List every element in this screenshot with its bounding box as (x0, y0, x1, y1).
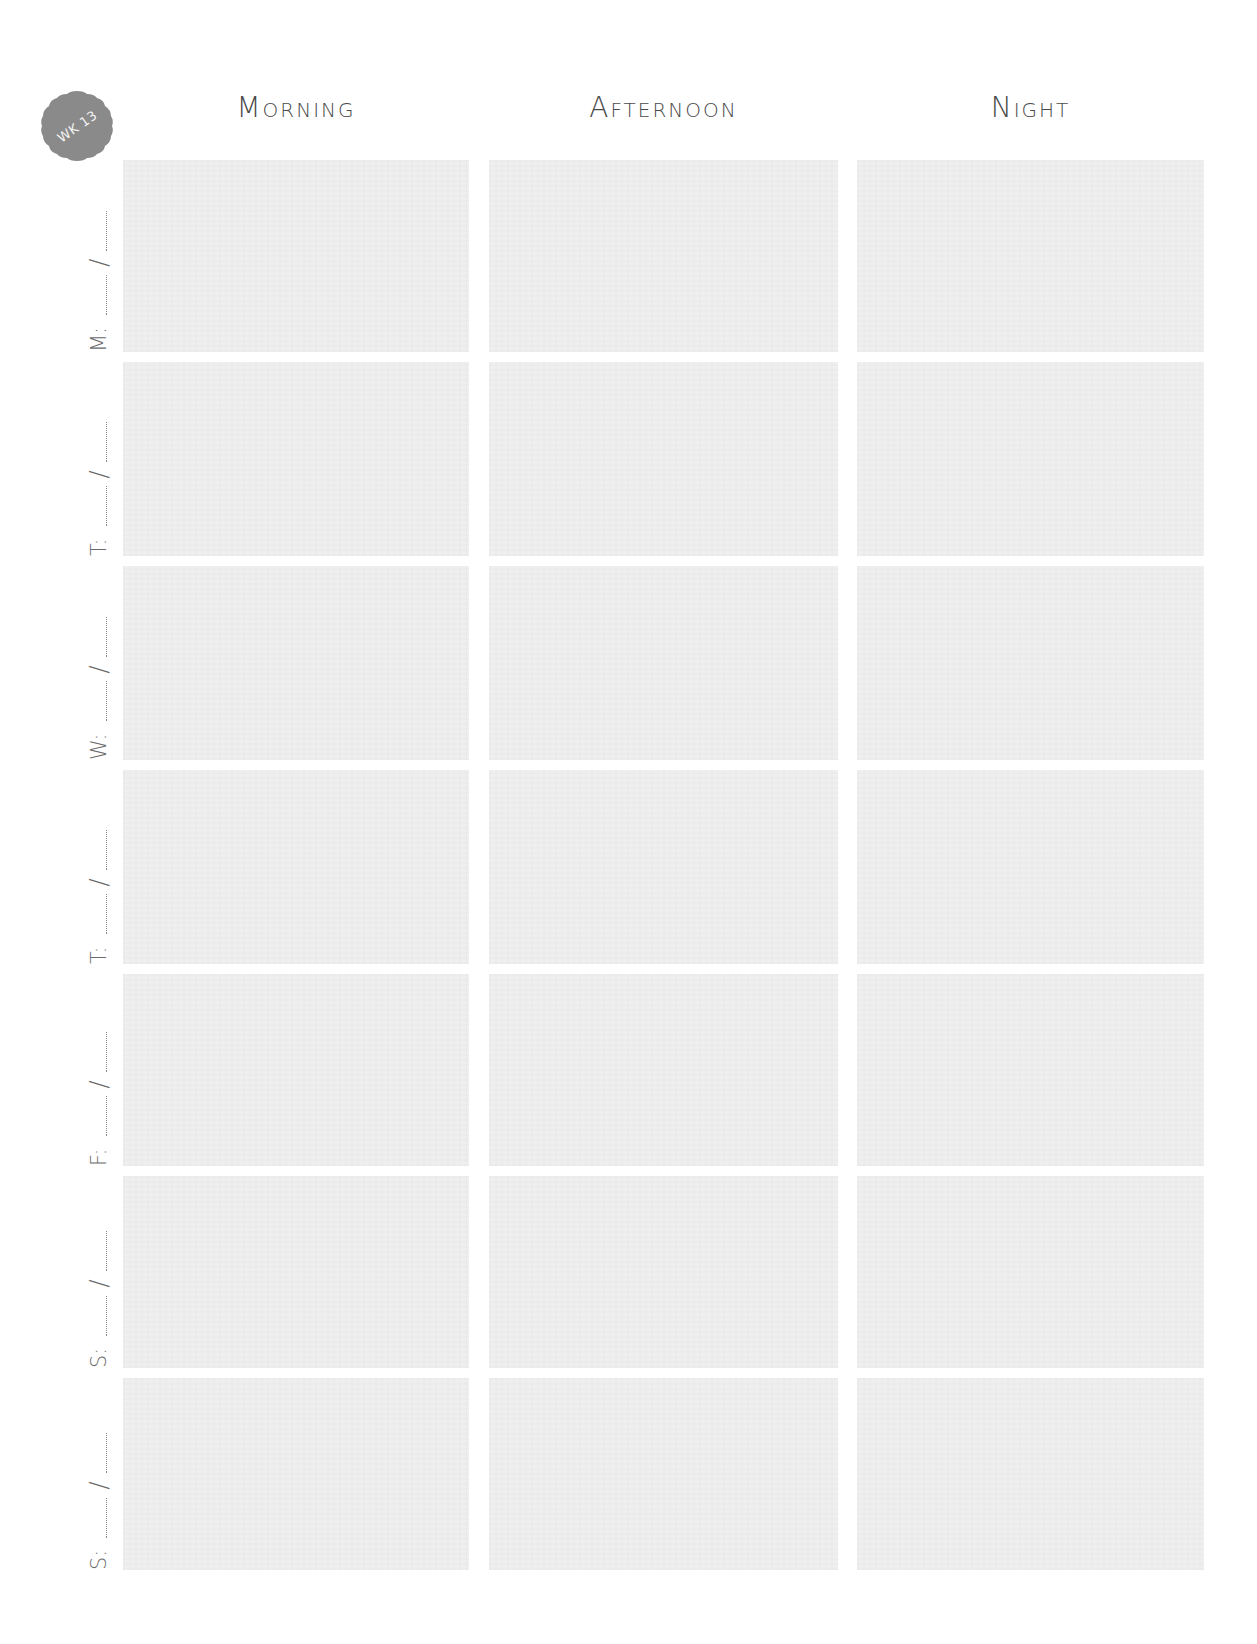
date-day-blank[interactable] (92, 211, 107, 251)
day-label-friday: F: / (84, 974, 114, 1166)
cell-saturday-morning[interactable] (123, 1176, 469, 1368)
cell-thursday-morning[interactable] (123, 770, 469, 964)
day-label-sunday: S: / (84, 1378, 114, 1570)
cell-thursday-afternoon[interactable] (489, 770, 838, 964)
cell-sunday-morning[interactable] (123, 1378, 469, 1570)
day-letter: S: (87, 1550, 111, 1570)
cell-saturday-night[interactable] (857, 1176, 1204, 1368)
cell-friday-afternoon[interactable] (489, 974, 838, 1166)
date-separator: / (85, 470, 113, 478)
cell-wednesday-morning[interactable] (123, 566, 469, 760)
date-separator: / (85, 1280, 113, 1288)
date-month-blank[interactable] (92, 1498, 107, 1538)
header-morning: Morning (123, 82, 469, 132)
week-badge: WK 13 (40, 89, 114, 163)
date-separator: / (85, 878, 113, 886)
cell-tuesday-morning[interactable] (123, 362, 469, 556)
cell-monday-afternoon[interactable] (489, 160, 838, 352)
cell-wednesday-night[interactable] (857, 566, 1204, 760)
cell-saturday-afternoon[interactable] (489, 1176, 838, 1368)
day-letter: M: (87, 327, 111, 352)
date-month-blank[interactable] (92, 1296, 107, 1336)
date-day-blank[interactable] (92, 1032, 107, 1072)
cell-wednesday-afternoon[interactable] (489, 566, 838, 760)
date-day-blank[interactable] (92, 1232, 107, 1272)
date-day-blank[interactable] (92, 422, 107, 462)
day-letter: F: (87, 1148, 111, 1166)
date-month-blank[interactable] (92, 894, 107, 934)
header-night: Night (857, 82, 1204, 132)
date-month-blank[interactable] (92, 275, 107, 315)
date-month-blank[interactable] (92, 486, 107, 526)
day-letter: T: (87, 538, 111, 556)
day-label-tuesday: T: / (84, 364, 114, 556)
cell-tuesday-night[interactable] (857, 362, 1204, 556)
cell-friday-morning[interactable] (123, 974, 469, 1166)
day-letter: S: (87, 1348, 111, 1368)
date-day-blank[interactable] (92, 1434, 107, 1474)
cell-monday-morning[interactable] (123, 160, 469, 352)
day-label-wednesday: W: / (84, 568, 114, 760)
cell-tuesday-afternoon[interactable] (489, 362, 838, 556)
date-separator: / (85, 665, 113, 673)
date-month-blank[interactable] (92, 681, 107, 721)
cell-friday-night[interactable] (857, 974, 1204, 1166)
cell-thursday-night[interactable] (857, 770, 1204, 964)
day-letter: W: (87, 733, 111, 760)
day-label-monday: M: / (84, 160, 114, 352)
date-day-blank[interactable] (92, 830, 107, 870)
day-label-saturday: S: / (84, 1176, 114, 1368)
cell-monday-night[interactable] (857, 160, 1204, 352)
cell-sunday-night[interactable] (857, 1378, 1204, 1570)
day-label-thursday: T: / (84, 772, 114, 964)
date-separator: / (85, 1080, 113, 1088)
date-separator: / (85, 259, 113, 267)
day-letter: T: (87, 946, 111, 964)
date-separator: / (85, 1482, 113, 1490)
cell-sunday-afternoon[interactable] (489, 1378, 838, 1570)
header-afternoon: Afternoon (489, 82, 838, 132)
date-month-blank[interactable] (92, 1096, 107, 1136)
date-day-blank[interactable] (92, 617, 107, 657)
